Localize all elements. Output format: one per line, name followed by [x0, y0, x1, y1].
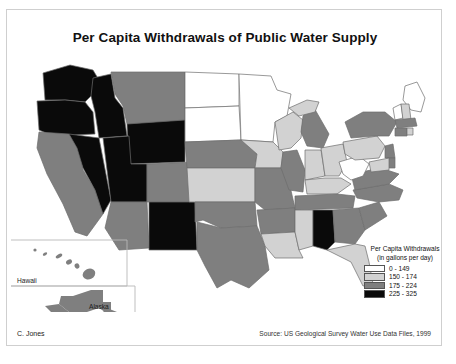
legend: Per Capita Withdrawals (in gallons per d… — [359, 244, 451, 298]
legend-swatch-3 — [364, 290, 385, 298]
source-note: Source: US Geological Survey Water Use D… — [259, 330, 431, 337]
state-oregon — [37, 100, 95, 136]
page-title: Per Capita Withdrawals of Public Water S… — [7, 30, 443, 45]
state-northdakota — [185, 72, 239, 108]
legend-label-1: 150 - 174 — [389, 273, 417, 280]
legend-item: 225 - 325 — [364, 290, 451, 299]
legend-item: 0 - 149 — [364, 264, 451, 273]
hawaii-label: Hawaii — [17, 277, 37, 284]
state-pennsylvania — [343, 136, 385, 160]
state-southdakota — [185, 106, 241, 142]
state-kansas — [187, 168, 255, 202]
legend-label-0: 0 - 149 — [389, 265, 410, 272]
legend-item: 175 - 224 — [364, 281, 451, 290]
legend-rows: 0 - 149 150 - 174 175 - 224 225 - 325 — [364, 264, 451, 298]
state-maryland — [369, 158, 389, 172]
map-page: Per Capita Withdrawals of Public Water S… — [0, 0, 456, 364]
state-massachusetts — [395, 118, 417, 128]
author-credit: C. Jones — [17, 330, 45, 337]
legend-title-line2: (in gallons per day) — [359, 253, 451, 262]
state-rhodeisland — [407, 128, 413, 135]
legend-label-2: 175 - 224 — [389, 282, 417, 289]
state-newhampshire — [401, 104, 411, 120]
state-mississippi — [295, 210, 313, 250]
map-frame: Per Capita Withdrawals of Public Water S… — [6, 9, 442, 346]
state-tennessee — [295, 194, 355, 210]
legend-swatch-0 — [364, 265, 385, 273]
state-newmexico — [149, 202, 197, 250]
state-texas — [197, 222, 269, 288]
state-newyork — [345, 112, 397, 138]
legend-swatch-1 — [364, 273, 385, 281]
state-alabama — [313, 210, 335, 250]
legend-swatch-2 — [364, 282, 385, 290]
state-washington — [43, 65, 99, 102]
state-newjersey — [385, 144, 395, 158]
hawaii-islands — [33, 248, 97, 281]
state-arkansas — [257, 208, 295, 234]
state-kentucky — [305, 178, 351, 194]
legend-label-3: 225 - 325 — [389, 290, 417, 297]
alaska-label: Alaska — [89, 303, 109, 310]
legend-item: 150 - 174 — [364, 273, 451, 282]
state-connecticut — [395, 128, 407, 136]
legend-title-line1: Per Capita Withdrawals — [359, 244, 451, 253]
state-wyoming — [127, 120, 185, 164]
